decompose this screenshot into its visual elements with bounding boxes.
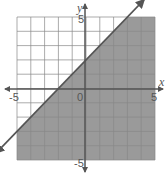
y-tick-5: 5	[78, 13, 84, 25]
x-tick-5: 5	[151, 91, 157, 103]
origin-label: 0	[77, 91, 83, 103]
inequality-graph: x y -5 0 5 5 -5	[0, 0, 166, 175]
y-tick-neg5: -5	[74, 157, 84, 169]
x-axis-label: x	[158, 75, 165, 89]
x-tick-neg5: -5	[9, 91, 19, 103]
